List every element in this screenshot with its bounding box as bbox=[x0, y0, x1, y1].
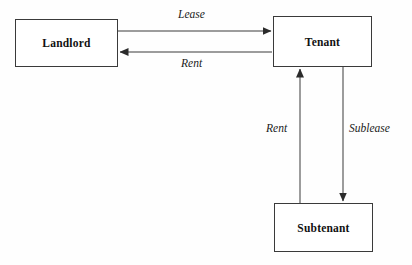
edge-label-sublease: Sublease bbox=[349, 122, 390, 134]
node-tenant-label: Tenant bbox=[305, 36, 340, 48]
node-subtenant[interactable]: Subtenant bbox=[274, 203, 373, 252]
node-tenant[interactable]: Tenant bbox=[273, 16, 372, 67]
diagram-canvas: Landlord Tenant Subtenant Lease Rent Ren… bbox=[0, 0, 412, 265]
node-landlord-label: Landlord bbox=[42, 37, 90, 49]
edge-label-rent-top: Rent bbox=[181, 57, 202, 69]
edge-label-lease: Lease bbox=[178, 8, 205, 20]
edge-label-rent-sublease: Rent bbox=[266, 122, 287, 134]
node-subtenant-label: Subtenant bbox=[297, 222, 349, 234]
node-landlord[interactable]: Landlord bbox=[15, 19, 118, 67]
